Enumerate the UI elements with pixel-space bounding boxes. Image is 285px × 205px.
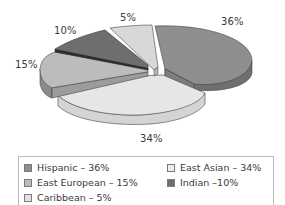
legend-item-east-european: East European – 15%: [24, 177, 138, 188]
label-hispanic: 36%: [221, 16, 244, 27]
swatch-caribbean-icon: [24, 194, 32, 202]
legend-item-caribbean: Caribbean – 5%: [24, 192, 112, 203]
chart-legend: Hispanic – 36% East European – 15% Carib…: [18, 156, 274, 205]
legend-item-hispanic: Hispanic – 36%: [24, 162, 109, 173]
legend-label: Hispanic – 36%: [37, 162, 109, 173]
label-east-asian: 34%: [140, 133, 163, 144]
swatch-indian-icon: [167, 179, 175, 187]
legend-label: East Asian – 34%: [180, 162, 261, 173]
label-east-european: 15%: [15, 59, 38, 70]
legend-label: East European – 15%: [37, 177, 138, 188]
legend-item-east-asian: East Asian – 34%: [167, 162, 261, 173]
legend-item-indian: Indian –10%: [167, 177, 238, 188]
swatch-east-european-icon: [24, 179, 32, 187]
label-caribbean: 5%: [120, 12, 136, 23]
label-indian: 10%: [54, 25, 77, 36]
legend-label: Caribbean – 5%: [37, 192, 112, 203]
swatch-hispanic-icon: [24, 164, 32, 172]
legend-label: Indian –10%: [180, 177, 238, 188]
swatch-east-asian-icon: [167, 164, 175, 172]
